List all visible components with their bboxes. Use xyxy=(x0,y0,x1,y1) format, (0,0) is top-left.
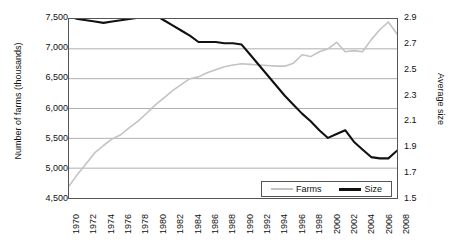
y-axis-left-tick-label: 6,000 xyxy=(45,104,68,113)
y-axis-right-tick-label: 2.9 xyxy=(404,13,417,22)
y-axis-left-tick-label: 7,000 xyxy=(45,43,68,52)
y-axis-right-tick-label: 1.7 xyxy=(404,168,417,177)
series-line-size xyxy=(69,19,397,158)
y-axis-right-tick-label: 1.9 xyxy=(404,142,417,151)
y-axis-right-tick-label: 2.3 xyxy=(404,91,417,100)
y-axis-left-tick-label: 4,500 xyxy=(45,194,68,203)
y-axis-left-title: Number of farms (thousands) xyxy=(13,21,23,181)
chart-root: Number of farms (thousands) Average size… xyxy=(0,0,449,249)
x-axis-tick-label: 1984 xyxy=(194,214,203,234)
y-axis-left-tick-label: 5,500 xyxy=(45,134,68,143)
x-axis-tick-label: 1992 xyxy=(263,214,272,234)
x-axis-tick-label: 2006 xyxy=(385,214,394,234)
legend-line-swatch-icon xyxy=(271,188,293,190)
x-axis-tick-label: 1976 xyxy=(124,214,133,234)
x-axis-tick-label: 2004 xyxy=(367,214,376,234)
y-axis-left-tick-label: 6,500 xyxy=(45,73,68,82)
legend-item-size[interactable]: Size xyxy=(339,184,382,194)
x-axis-tick-label: 2000 xyxy=(333,214,342,234)
y-axis-right-tick-label: 2.5 xyxy=(404,65,417,74)
x-axis-tick-label: 1970 xyxy=(72,214,81,234)
x-axis-tick-label: 1990 xyxy=(246,214,255,234)
legend-line-swatch-icon xyxy=(339,188,361,191)
legend-label: Farms xyxy=(296,184,322,194)
series-lines xyxy=(69,19,397,198)
y-axis-right-title: Average size xyxy=(436,24,446,174)
x-axis-tick-label: 1998 xyxy=(315,214,324,234)
x-axis-tick-label: 2002 xyxy=(350,214,359,234)
y-axis-right-tick-label: 2.1 xyxy=(404,116,417,125)
x-axis-tick-label: 1988 xyxy=(228,214,237,234)
x-axis-tick-label: 1994 xyxy=(280,214,289,234)
legend-item-farms[interactable]: Farms xyxy=(271,184,322,194)
legend-label: Size xyxy=(364,184,382,194)
y-axis-right-tick-label: 2.7 xyxy=(404,39,417,48)
x-axis-tick-label: 1978 xyxy=(141,214,150,234)
x-axis-tick-label: 2008 xyxy=(402,214,411,234)
series-line-farms xyxy=(69,22,397,186)
x-axis-tick-label: 1982 xyxy=(176,214,185,234)
plot-area xyxy=(68,18,398,199)
y-axis-right-tick-label: 1.5 xyxy=(404,194,417,203)
y-axis-left-tick-label: 7,500 xyxy=(45,13,68,22)
x-axis-tick-label: 1972 xyxy=(89,214,98,234)
x-axis-tick-label: 1986 xyxy=(211,214,220,234)
chart-legend: FarmsSize xyxy=(261,181,392,197)
x-axis-tick-label: 1980 xyxy=(159,214,168,234)
y-axis-left-tick-label: 5,000 xyxy=(45,164,68,173)
x-axis-tick-label: 1996 xyxy=(298,214,307,234)
x-axis-tick-label: 1974 xyxy=(107,214,116,234)
